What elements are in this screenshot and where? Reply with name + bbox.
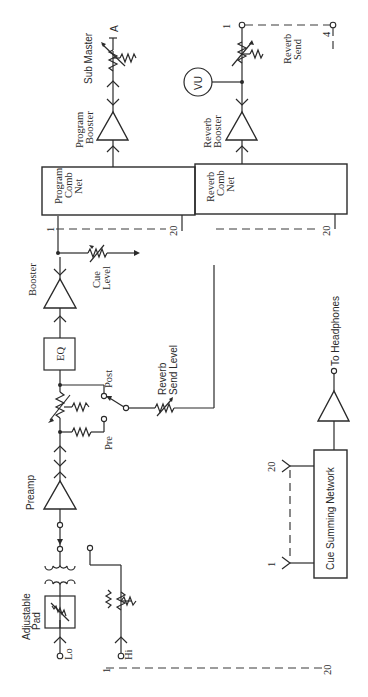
eq-label: EQ: [55, 347, 66, 361]
vu-label: VU: [193, 76, 204, 90]
booster-label: Booster: [27, 263, 38, 296]
input-select-terminal: [57, 546, 62, 551]
adjustable-pad-label-2: Pad: [31, 612, 42, 630]
preamp-triangle-icon: [44, 481, 76, 509]
program-comb-label-3: Net: [73, 179, 84, 194]
hi-label: Hi: [123, 649, 134, 660]
reverb-booster-label-2: Booster: [212, 115, 223, 148]
reverb-send-level-label-2: Send Level: [168, 345, 179, 395]
reverb-output: Reverb Booster VU 1 4 Reverb Send: [184, 22, 336, 164]
program-booster-label-2: Booster: [84, 111, 95, 144]
signal-flow-diagram: Lo Adjustable Pad Preamp: [0, 0, 368, 697]
program-output: Program Booster A Sub Master: [74, 25, 136, 167]
lo-input-terminal: [57, 653, 63, 659]
pre-terminal: [101, 416, 106, 421]
input-bus-20-label: 20: [322, 665, 333, 676]
program-bus-20-label: 20: [168, 226, 179, 237]
hi-input: Hi: [87, 545, 136, 660]
pre-resistor-icon: [72, 428, 91, 436]
cue-section: To Headphones Cue Summing Network 20 1: [266, 296, 349, 578]
reverb-comb-label-3: Net: [225, 177, 236, 192]
cue-input-1-label: 1: [266, 562, 277, 567]
cue-level-label-2: Level: [101, 266, 112, 290]
reverb-booster-triangle-icon: [226, 112, 257, 140]
booster-triangle-icon: [44, 279, 76, 308]
pre-post-switch-pivot[interactable]: [123, 405, 128, 410]
cue-level-arrow-icon: [134, 250, 140, 256]
to-headphones-label: To Headphones: [330, 296, 341, 366]
preamp-label: Preamp: [25, 475, 36, 510]
headphones-amp-triangle-icon: [318, 391, 349, 421]
input-transformer-icon: [45, 552, 75, 596]
reverb-send-level-label-1: Reverb: [157, 362, 168, 395]
post-label: Post: [103, 370, 114, 388]
cue-input-20-label: 20: [266, 462, 277, 473]
cue-input-20-connector-icon: [282, 460, 290, 472]
program-booster-triangle-icon: [97, 112, 128, 140]
cue-input-1-connector-icon: [282, 557, 290, 569]
input-bus: 1 20: [101, 665, 333, 676]
channel-fader-icon: [56, 392, 64, 418]
comb-nets: Program Comb Net Reverb Comb Net 1 20 20: [42, 164, 347, 236]
hi-select-terminal: [87, 545, 92, 550]
program-bus-1-label: 1: [45, 227, 56, 232]
reverb-send-label-2: Send: [292, 38, 303, 60]
reverb-send-bus-1-label: 1: [221, 24, 232, 29]
sub-master-label: Sub Master: [83, 32, 94, 84]
pre-label: Pre: [103, 436, 114, 450]
main-chain: Lo Adjustable Pad Preamp: [21, 216, 214, 660]
cue-summing-label: Cue Summing Network: [325, 466, 336, 570]
sub-master-output-label: A: [109, 25, 120, 32]
post-terminal: [101, 393, 106, 398]
reverb-bus-20-label: 20: [321, 226, 332, 237]
lo-label: Lo: [63, 648, 74, 660]
reverb-send-bus-4-label: 4: [321, 31, 332, 37]
headphones-output-terminal: [331, 368, 336, 373]
